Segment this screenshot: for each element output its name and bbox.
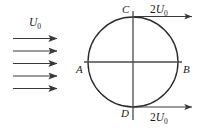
- freestream-label: U0: [29, 17, 41, 29]
- freestream-arrow-group: [13, 39, 57, 89]
- point-label-c: C: [122, 4, 129, 15]
- point-label-a: A: [76, 64, 83, 75]
- velocity-subscript-bottom: 0: [164, 117, 168, 126]
- velocity-label-top: 2U0: [150, 4, 168, 16]
- velocity-subscript-top: 0: [164, 9, 168, 18]
- figure-canvas: U0 A B C D 2U0 2U0: [0, 0, 198, 132]
- velocity-symbol-top: U: [156, 3, 164, 15]
- freestream-subscript: 0: [37, 22, 41, 31]
- point-label-d: D: [121, 108, 129, 119]
- velocity-label-bottom: 2U0: [150, 112, 168, 124]
- velocity-symbol-bottom: U: [156, 111, 164, 123]
- point-label-b: B: [183, 64, 190, 75]
